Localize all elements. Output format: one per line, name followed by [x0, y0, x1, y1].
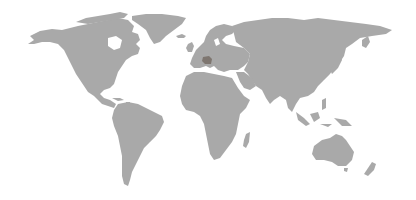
region-madagascar[interactable] [243, 132, 250, 148]
world-map-svg [0, 0, 416, 200]
region-australia[interactable] [312, 134, 354, 166]
region-asia[interactable] [232, 18, 392, 112]
region-tasmania[interactable] [344, 168, 348, 172]
region-greenland[interactable] [132, 14, 186, 44]
region-north-america[interactable] [28, 18, 140, 108]
region-kamchatka[interactable] [362, 36, 370, 48]
region-south-america[interactable] [112, 102, 164, 186]
region-uk[interactable] [186, 42, 194, 52]
region-new-zealand[interactable] [364, 162, 376, 176]
world-map [0, 0, 416, 200]
region-iceland[interactable] [176, 34, 186, 38]
region-africa[interactable] [180, 72, 250, 160]
region-sea-islands[interactable] [296, 98, 352, 127]
